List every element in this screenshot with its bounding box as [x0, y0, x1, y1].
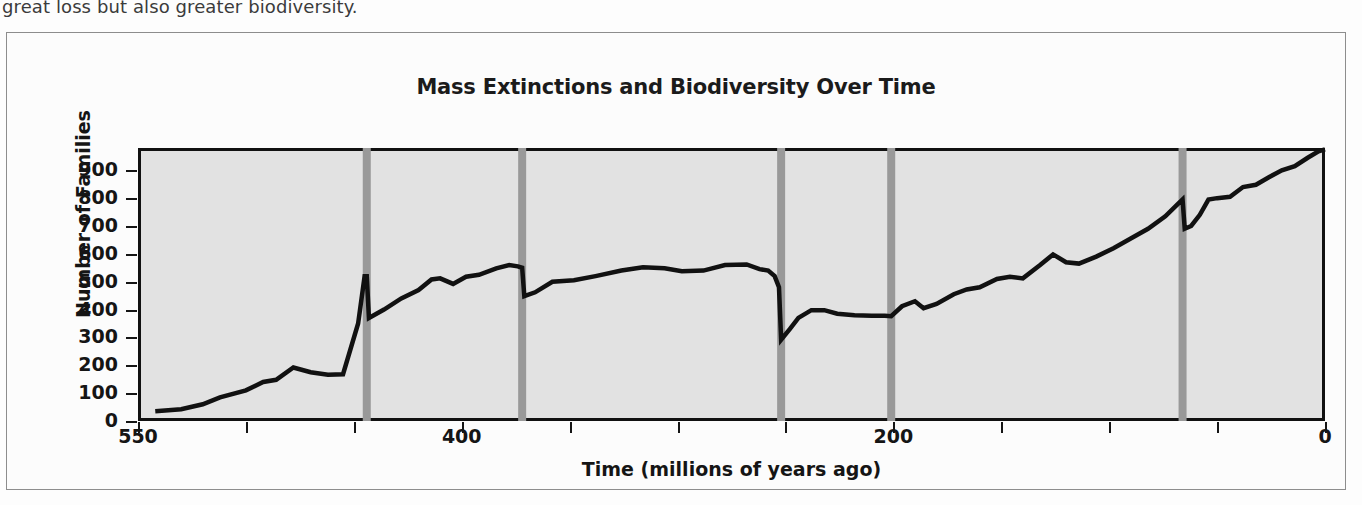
x-axis-title: Time (millions of years ago) — [138, 458, 1325, 480]
y-tick-mark — [126, 393, 137, 395]
body-paragraph-text: great loss but also greater biodiversity… — [2, 0, 358, 18]
y-tick-label: 700 — [58, 214, 118, 236]
y-tick-label: 600 — [58, 242, 118, 264]
y-tick-mark — [126, 170, 137, 172]
y-tick-mark — [126, 254, 137, 256]
x-tick-mark-minor — [354, 422, 356, 433]
x-tick-mark-minor — [246, 422, 248, 433]
y-tick-label: 100 — [58, 381, 118, 403]
x-tick-mark-minor — [678, 422, 680, 433]
y-tick-label: 200 — [58, 353, 118, 375]
y-tick-label: 500 — [58, 270, 118, 292]
x-tick-mark-minor — [1001, 422, 1003, 433]
x-tick-mark-minor — [570, 422, 572, 433]
x-tick-label: 400 — [422, 425, 502, 447]
x-tick-mark-minor — [785, 422, 787, 433]
y-tick-mark — [126, 282, 137, 284]
y-tick-mark — [126, 421, 137, 423]
biodiversity-line-series — [155, 149, 1325, 411]
x-tick-label: 550 — [98, 425, 178, 447]
x-tick-label: 200 — [853, 425, 933, 447]
y-tick-mark — [126, 226, 137, 228]
y-tick-label: 400 — [58, 298, 118, 320]
x-tick-label: 0 — [1285, 425, 1362, 447]
chart-title: Mass Extinctions and Biodiversity Over T… — [7, 75, 1345, 99]
y-tick-mark — [126, 198, 137, 200]
y-tick-label: 900 — [58, 158, 118, 180]
y-tick-mark — [126, 365, 137, 367]
y-tick-mark — [126, 337, 137, 339]
x-tick-mark-minor — [1217, 422, 1219, 433]
extinction-event-bar — [887, 148, 895, 421]
y-tick-label: 300 — [58, 325, 118, 347]
y-tick-label: 800 — [58, 186, 118, 208]
page-root: great loss but also greater biodiversity… — [0, 0, 1362, 505]
extinction-bar-group — [363, 148, 1187, 421]
extinction-event-bar — [1179, 148, 1187, 421]
x-tick-mark-minor — [1109, 422, 1111, 433]
figure-container: Mass Extinctions and Biodiversity Over T… — [6, 32, 1346, 490]
y-tick-mark — [126, 310, 137, 312]
chart-plot-svg — [138, 148, 1325, 421]
